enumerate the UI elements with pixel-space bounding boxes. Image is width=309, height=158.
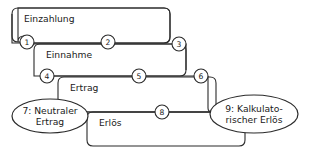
box-erloes-label: Erlös xyxy=(99,118,122,129)
box-einzahlung-label: Einzahlung xyxy=(24,14,75,25)
ellipse-neutraler-ertrag-label: 7: Neutraler Ertrag xyxy=(12,105,88,127)
box-ertrag-label: Ertrag xyxy=(70,83,98,94)
marker-5-label: 5 xyxy=(132,73,146,81)
box-einnahme-label: Einnahme xyxy=(46,50,92,61)
diagram-canvas: Einzahlung Einnahme Ertrag Erlös 7: Neut… xyxy=(0,0,309,158)
marker-2-label: 2 xyxy=(101,39,115,47)
marker-1-label: 1 xyxy=(20,39,34,47)
marker-4-label: 4 xyxy=(40,73,54,81)
ellipse-kalkulatorischer-erloes-label: 9: Kalkulato- rischer Erlös xyxy=(210,103,298,125)
marker-8-label: 8 xyxy=(155,109,169,117)
marker-6-label: 6 xyxy=(194,73,208,81)
marker-3-label: 3 xyxy=(172,41,186,49)
